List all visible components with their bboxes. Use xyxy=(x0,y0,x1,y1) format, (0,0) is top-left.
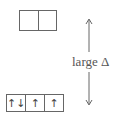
lower-orbital-3: ↑ xyxy=(45,95,63,111)
upper-orbital-set xyxy=(19,10,57,31)
lower-orbital-set: ↑↓ ↑ ↑ xyxy=(6,94,64,112)
lower-orbital-2: ↑ xyxy=(26,95,45,111)
lower-orbital-1: ↑↓ xyxy=(7,95,26,111)
down-arrow-icon xyxy=(84,72,94,106)
upper-orbital-2 xyxy=(39,11,57,30)
up-arrow-icon xyxy=(84,18,94,52)
upper-orbital-1 xyxy=(20,11,39,30)
energy-gap-label: large Δ xyxy=(72,54,109,70)
